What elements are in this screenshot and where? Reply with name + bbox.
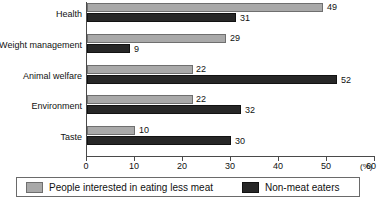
bar-environment-dark	[87, 105, 241, 114]
bar-value-weight-dark: 9	[134, 44, 139, 55]
bar-health-dark	[87, 13, 236, 22]
bar-value-taste-dark: 30	[235, 136, 245, 147]
plot-area: 0 10 20 30 40 50 60 (%) Health 49 31 Wei…	[0, 0, 378, 160]
bar-taste-light	[87, 126, 135, 135]
x-tick-label-50: 50	[321, 161, 331, 172]
bar-value-animal-dark: 52	[341, 75, 351, 86]
bar-weight-light	[87, 34, 226, 43]
category-label-environment: Environment	[31, 101, 82, 112]
bar-animal-dark	[87, 75, 337, 84]
legend-swatch-dark	[242, 182, 259, 193]
legend-label-people-interested: People interested in eating less meat	[49, 182, 213, 194]
chart-legend: People interested in eating less meat No…	[16, 177, 360, 197]
bar-environment-light	[87, 95, 193, 104]
x-tick-label-20: 20	[177, 161, 187, 172]
bar-value-environment-light: 22	[196, 94, 206, 105]
bar-value-animal-light: 22	[196, 64, 206, 75]
bar-value-taste-light: 10	[139, 125, 149, 136]
x-tick-label-10: 10	[129, 161, 139, 172]
x-tick-label-0: 0	[83, 161, 88, 172]
bar-value-health-dark: 31	[240, 13, 250, 24]
x-axis-unit-label: (%)	[360, 161, 372, 172]
category-label-taste: Taste	[60, 132, 82, 143]
legend-item-people-interested: People interested in eating less meat	[26, 181, 213, 194]
bar-chart: 0 10 20 30 40 50 60 (%) Health 49 31 Wei…	[0, 0, 378, 203]
bar-value-health-light: 49	[327, 2, 337, 13]
x-tick-label-40: 40	[273, 161, 283, 172]
legend-swatch-light	[26, 182, 43, 193]
bar-animal-light	[87, 65, 193, 74]
bar-health-light	[87, 3, 323, 12]
bar-weight-dark	[87, 44, 130, 53]
x-tick-label-30: 30	[225, 161, 235, 172]
bar-taste-dark	[87, 136, 231, 145]
bar-value-weight-light: 29	[230, 33, 240, 44]
bar-value-environment-dark: 32	[245, 105, 255, 116]
category-label-health: Health	[56, 9, 82, 20]
category-label-weight-management: Weight management	[0, 40, 82, 51]
legend-label-non-meat-eaters: Non-meat eaters	[265, 182, 339, 194]
legend-item-non-meat-eaters: Non-meat eaters	[242, 181, 339, 194]
category-label-animal-welfare: Animal welfare	[23, 71, 82, 82]
